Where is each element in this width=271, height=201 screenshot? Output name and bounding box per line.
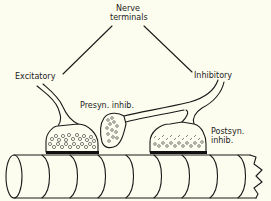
postsynaptic-inhibitory-terminal [150, 122, 207, 154]
postsyn-inhib-line2: inhib. [211, 136, 244, 145]
postsynaptic-axon-cylinder [6, 155, 262, 198]
presyn-inhib-label: Presyn. inhib. [80, 101, 134, 110]
nerve-terminals-label: Nerve terminals [110, 4, 146, 22]
leader-line-excitatory [63, 26, 112, 74]
postsyn-inhib-label: Postsyn. inhib. [211, 127, 244, 145]
excitatory-label: Excitatory [15, 72, 55, 81]
excitatory-terminal [46, 124, 99, 154]
leader-line-inhibitory [144, 26, 192, 72]
nerve-terminals-line2: terminals [110, 13, 146, 22]
presynaptic-inhibitory-terminal [101, 113, 126, 147]
excitatory-axon [37, 84, 78, 126]
nerve-terminals-line1: Nerve [110, 4, 146, 13]
postsyn-inhib-line1: Postsyn. [211, 127, 244, 136]
inhibitory-label: Inhibitory [194, 71, 232, 80]
synapse-diagram: Nerve terminals Excitatory Inhibitory Pr… [0, 0, 271, 201]
diagram-drawing [0, 0, 271, 201]
inhibitory-axon [124, 80, 224, 124]
